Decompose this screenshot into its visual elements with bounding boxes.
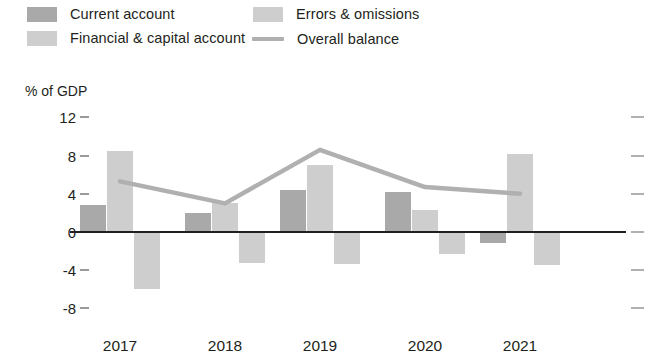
- chart-plot-area: % of GDP 12840-4-8 20172018201920202021: [0, 62, 648, 364]
- legend-swatch-icon: [27, 31, 57, 46]
- legend-item-overall-balance: Overall balance: [252, 31, 399, 47]
- legend-label: Financial & capital account: [70, 30, 245, 46]
- chart-legend: Current account Financial & capital acco…: [0, 0, 648, 62]
- legend-item-errors-omissions: Errors & omissions: [253, 6, 419, 22]
- legend-label: Current account: [70, 6, 175, 22]
- x-axis-label: 2020: [408, 337, 442, 355]
- legend-swatch-icon: [27, 7, 57, 22]
- overall-balance-line: [0, 62, 648, 364]
- legend-label: Overall balance: [297, 31, 399, 47]
- legend-swatch-icon: [253, 7, 283, 22]
- x-axis-label: 2019: [303, 337, 337, 355]
- x-axis-label: 2021: [503, 337, 537, 355]
- x-axis-label: 2017: [103, 337, 137, 355]
- x-axis-label: 2018: [208, 337, 242, 355]
- legend-item-financial-capital-account: Financial & capital account: [27, 30, 245, 46]
- legend-label: Errors & omissions: [296, 6, 419, 22]
- overall-balance-polyline: [120, 150, 520, 203]
- legend-line-icon: [252, 37, 284, 41]
- legend-item-current-account: Current account: [27, 6, 175, 22]
